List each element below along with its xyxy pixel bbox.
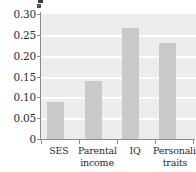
top-crop-artifact-secondary [37,4,41,8]
x-tick-label-personality-traits-line2: traits [153,157,196,169]
x-tick-separator-5 [193,140,194,144]
x-tick-label-personality-traits-line1: Personality [153,145,196,157]
y-tick-mark-0.20 [37,56,40,57]
y-tick-label-0.10: 0.10 [0,92,36,102]
plot-area [41,14,196,139]
bar-parental-income [85,81,102,139]
bar-chart: 0.30 0.25 0.20 0.15 0.10 0.05 0 SES Pare… [0,0,196,172]
x-tick-separator-1 [41,140,42,144]
x-tick-separator-4 [155,140,156,144]
x-axis-labels: SES Parental income IQ Personality trait… [40,145,196,172]
gridline-0.25 [41,35,196,37]
y-tick-mark-0.05 [37,118,40,119]
x-tick-label-personality-traits: Personality traits [153,145,196,168]
y-tick-mark-0 [37,139,40,140]
y-tick-label-0.20: 0.20 [0,51,36,61]
x-tick-label-parental-income-line1: Parental [78,145,116,157]
y-tick-label-0: 0 [0,134,36,144]
x-tick-label-iq-line1: IQ [116,145,154,157]
y-tick-mark-0.30 [37,14,40,15]
x-tick-separator-2 [79,140,80,144]
x-tick-label-iq: IQ [116,145,154,157]
x-tick-label-ses: SES [40,145,78,157]
y-tick-label-0.05: 0.05 [0,113,36,123]
bar-ses [47,102,64,139]
x-tick-label-parental-income-line2: income [78,157,116,169]
y-tick-label-0.15: 0.15 [0,72,36,82]
bar-iq [122,28,139,139]
x-tick-label-ses-line1: SES [40,145,78,157]
y-axis-line [40,12,41,140]
y-tick-label-0.25: 0.25 [0,30,36,40]
y-tick-mark-0.25 [37,35,40,36]
y-tick-mark-0.10 [37,97,40,98]
y-tick-label-0.30: 0.30 [0,9,36,19]
x-tick-label-parental-income: Parental income [78,145,116,168]
y-axis-labels: 0.30 0.25 0.20 0.15 0.10 0.05 0 [0,0,36,172]
y-tick-mark-0.15 [37,77,40,78]
top-crop-artifact [38,0,43,3]
bar-personality-traits [159,43,176,139]
x-tick-separator-3 [117,140,118,144]
